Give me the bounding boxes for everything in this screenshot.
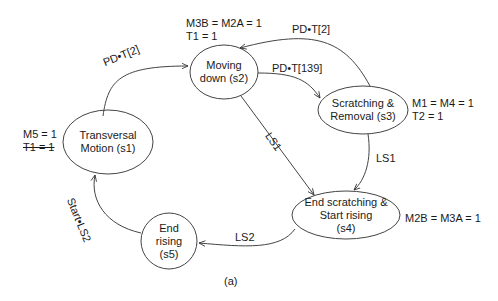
node-s5-line1: End: [141, 222, 197, 235]
node-s3-line2: Removal (s3): [318, 110, 408, 123]
node-s5-line2: rising: [141, 235, 197, 248]
node-s5-line3: (s5): [141, 248, 197, 261]
node-s4-line3: (s4): [292, 222, 400, 235]
node-s4-line2: Start rising: [292, 209, 400, 222]
edge-s3-s4: [354, 134, 369, 190]
node-s3: Scratching & Removal (s3): [318, 97, 408, 123]
label-s3-s2: PD•T[2]: [292, 23, 330, 36]
node-s1-line2: Motion (s1): [68, 142, 148, 155]
label-s2-s3: PD•T[139]: [272, 62, 322, 75]
s1-output-2-struck: T1 = 1: [23, 141, 55, 154]
s2-output-1: M3B = M2A = 1: [186, 17, 262, 30]
node-s2-line2: down (s2): [190, 72, 258, 85]
edge-s1-s2: [103, 66, 188, 116]
s4-output-1: M2B = M3A = 1: [405, 212, 481, 225]
label-s4-s5: LS2: [235, 231, 255, 244]
label-s3-s4: LS1: [376, 152, 396, 165]
edge-s5-s1: [94, 175, 141, 233]
s1-output-1: M5 = 1: [23, 128, 57, 141]
s3-output-2: T2 = 1: [412, 110, 444, 123]
figure-caption: (a): [224, 275, 237, 288]
node-s1: Transversal Motion (s1): [68, 129, 148, 155]
s3-output-1: M1 = M4 = 1: [412, 97, 474, 110]
node-s3-line1: Scratching &: [318, 97, 408, 110]
s2-output-2: T1 = 1: [186, 30, 218, 43]
edge-s2-s3: [258, 73, 320, 98]
node-s2-line1: Moving: [190, 59, 258, 72]
node-s1-line1: Transversal: [68, 129, 148, 142]
node-s4-line1: End scratching &: [292, 196, 400, 209]
node-s2: Moving down (s2): [190, 59, 258, 85]
node-s5: End rising (s5): [141, 222, 197, 261]
node-s4: End scratching & Start rising (s4): [292, 196, 400, 235]
